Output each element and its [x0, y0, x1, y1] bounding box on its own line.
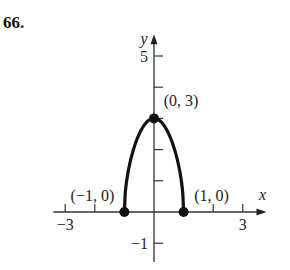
x-tick-label: −3	[57, 216, 74, 233]
y-axis-label: y	[138, 30, 148, 48]
x-axis-arrow-icon	[256, 209, 266, 216]
point-marker	[119, 207, 129, 217]
point-label: (1, 0)	[194, 187, 229, 205]
point-label: (−1, 0)	[71, 187, 115, 205]
point-marker	[179, 207, 189, 217]
x-axis-label: x	[258, 186, 266, 203]
point-marker	[149, 113, 159, 123]
y-tick-label: 5	[140, 48, 148, 65]
x-tick-label: 3	[239, 216, 247, 233]
y-axis-arrow-icon	[151, 34, 158, 44]
point-label: (0, 3)	[164, 92, 199, 110]
graph: xy−33−15(−1, 0)(0, 3)(1, 0)	[0, 0, 290, 270]
y-tick-label: −1	[131, 235, 148, 252]
